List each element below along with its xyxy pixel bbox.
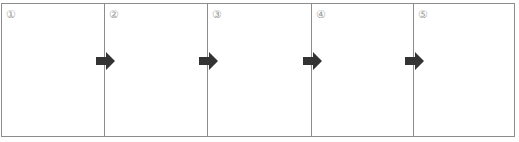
panel-number: ② bbox=[109, 9, 119, 20]
panel-3: ③ bbox=[208, 4, 312, 136]
panel-number: ④ bbox=[316, 9, 326, 20]
sequence-frame: ① ② ③ ④ ⑤ bbox=[1, 3, 515, 137]
panel-number: ⑤ bbox=[418, 9, 428, 20]
panel-1: ① bbox=[2, 4, 105, 136]
panel-number: ③ bbox=[212, 9, 222, 20]
panel-number: ① bbox=[6, 9, 16, 20]
right-arrow-icon bbox=[96, 52, 116, 70]
panel-2: ② bbox=[105, 4, 208, 136]
right-arrow-icon bbox=[199, 52, 219, 70]
panel-5: ⑤ bbox=[414, 4, 514, 136]
right-arrow-icon bbox=[405, 52, 425, 70]
right-arrow-icon bbox=[303, 52, 323, 70]
panel-4: ④ bbox=[312, 4, 414, 136]
